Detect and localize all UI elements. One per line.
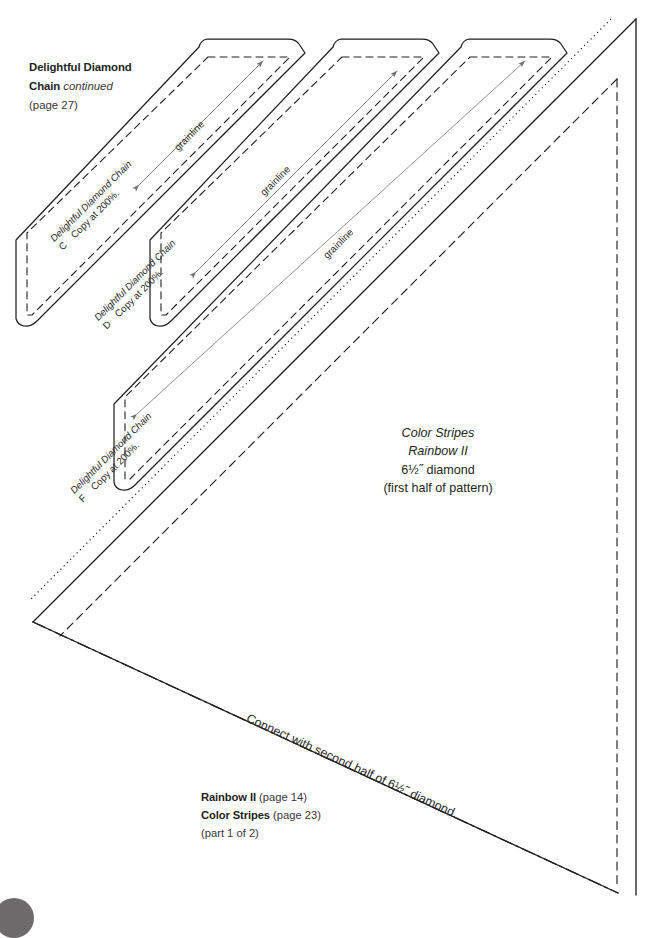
footer-page-2: (page 23): [273, 809, 321, 821]
strip-f-outline: [114, 39, 567, 490]
grainline-arrows: [137, 61, 525, 414]
header-line-2: Chain continued: [29, 77, 132, 96]
header-title-2: Chain: [29, 80, 60, 92]
strip-f-seamline: [125, 57, 552, 479]
center-note: Color Stripes Rainbow II 6½˝ diamond (fi…: [334, 424, 542, 498]
center-line-1: Color Stripes: [334, 424, 542, 442]
center-line-2: Rainbow II: [334, 442, 542, 460]
footer-page-1: (page 14): [259, 791, 307, 803]
center-line-4: (first half of pattern): [334, 479, 542, 497]
header-continued: continued: [63, 80, 112, 92]
footer-title-1: Rainbow II: [201, 791, 256, 803]
footer-line-1: Rainbow II (page 14): [201, 788, 321, 806]
footer-note: Rainbow II (page 14) Color Stripes (page…: [201, 788, 321, 842]
header-title-1: Delightful Diamond: [29, 61, 132, 73]
header-note: Delightful Diamond Chain continued (page…: [29, 58, 132, 115]
header-page-ref: (page 27): [29, 96, 132, 115]
strip-d-outline: [150, 39, 439, 326]
footer-line-2: Color Stripes (page 23): [201, 806, 321, 824]
page-corner-artifact: [0, 898, 34, 938]
center-line-3: 6½˝ diamond: [334, 461, 542, 479]
footer-part-label: (part 1 of 2): [201, 824, 321, 842]
footer-title-2: Color Stripes: [201, 809, 270, 821]
header-line-1: Delightful Diamond: [29, 58, 132, 77]
